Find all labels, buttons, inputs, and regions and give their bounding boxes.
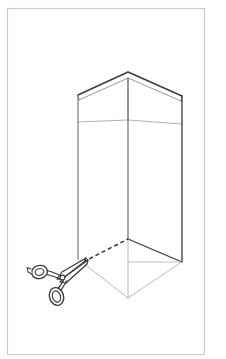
page-background: [0, 0, 226, 359]
figure-page: Black-and-white line drawing showing a t…: [0, 0, 226, 359]
box-cutting-illustration: [0, 0, 226, 359]
